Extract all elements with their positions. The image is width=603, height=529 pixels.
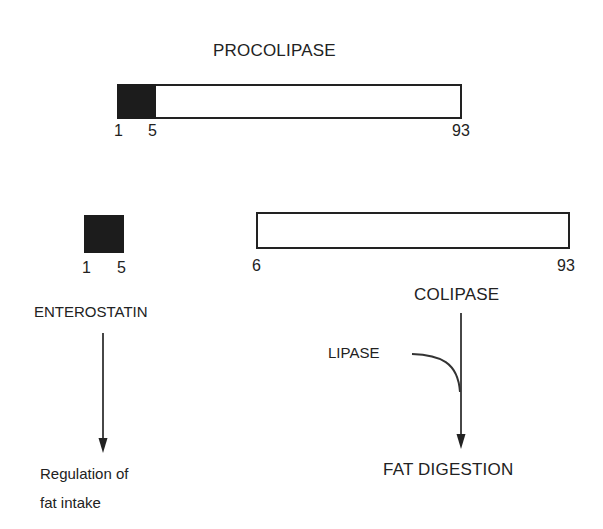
colipase-end-label: 93 xyxy=(557,257,575,275)
enterostatin-block xyxy=(84,215,124,253)
enterostatin-name: ENTEROSTATIN xyxy=(34,303,148,320)
lipase-label: LIPASE xyxy=(328,344,379,361)
colipase-bar xyxy=(256,212,570,249)
fat-digestion-label: FAT DIGESTION xyxy=(383,460,513,480)
colipase-name: COLIPASE xyxy=(414,285,499,305)
procolipase-bar xyxy=(117,84,462,119)
procolipase-cleave-label: 5 xyxy=(148,122,157,140)
enterostatin-outcome-line1: Regulation of xyxy=(40,465,128,482)
procolipase-end-label: 93 xyxy=(452,122,470,140)
enterostatin-outcome-line2: fat intake xyxy=(40,494,101,511)
enterostatin-arrow-icon xyxy=(99,333,108,453)
procolipase-title: PROCOLIPASE xyxy=(213,41,336,61)
enterostatin-end-label: 5 xyxy=(117,259,126,277)
enterostatin-start-label: 1 xyxy=(82,259,91,277)
procolipase-enterostatin-segment xyxy=(117,84,156,119)
procolipase-start-label: 1 xyxy=(114,122,123,140)
colipase-start-label: 6 xyxy=(252,257,261,275)
colipase-arrow-icon xyxy=(457,313,466,449)
lipase-curve-arrow-icon xyxy=(412,354,460,392)
